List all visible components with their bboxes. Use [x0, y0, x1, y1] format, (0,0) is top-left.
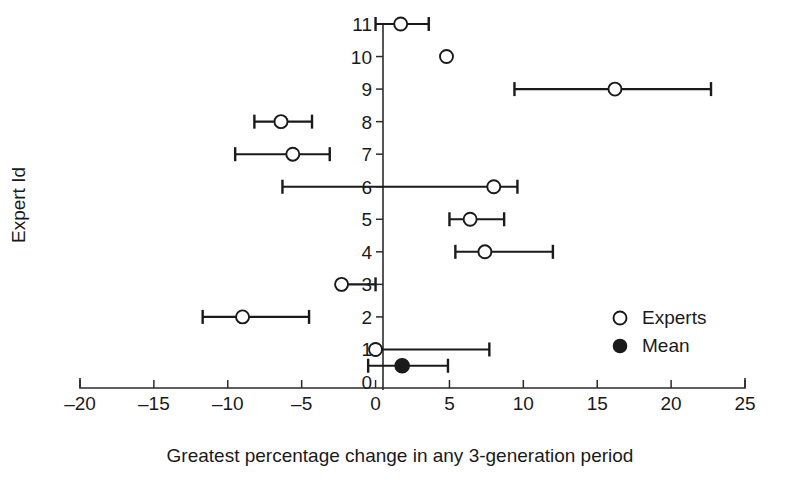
data-points-layer	[203, 17, 711, 373]
data-row	[440, 50, 453, 63]
y-axis-tick-label: 5	[361, 209, 372, 230]
y-axis-tick-label: 10	[351, 47, 372, 68]
data-row	[514, 82, 711, 96]
expert-marker	[369, 343, 382, 356]
chart-legend: ExpertsMean	[614, 307, 707, 356]
expert-marker	[236, 310, 249, 323]
data-row	[203, 310, 309, 324]
x-axis-tick-label: 5	[444, 393, 455, 414]
y-axis: 01234567891011	[351, 14, 383, 393]
y-axis-tick-label: 7	[361, 144, 372, 165]
expert-marker	[487, 180, 500, 193]
data-row	[449, 212, 504, 226]
data-row	[455, 245, 553, 259]
y-axis-title: Expert Id	[8, 167, 29, 243]
x-axis-tick-label: 25	[734, 393, 755, 414]
y-axis-tick-label: 11	[352, 14, 372, 35]
expert-marker	[394, 18, 407, 31]
data-row	[282, 180, 517, 194]
x-axis-tick-label: 0	[370, 393, 381, 414]
expert-estimates-chart: –20–15–10–50510152025 01234567891011 Exp…	[0, 0, 801, 482]
x-axis-title: Greatest percentage change in any 3-gene…	[167, 445, 634, 466]
x-axis-tick-label: –5	[291, 393, 312, 414]
data-row	[368, 359, 448, 373]
x-axis-tick-label: 20	[661, 393, 682, 414]
mean-marker	[395, 359, 409, 373]
expert-marker	[608, 83, 621, 96]
expert-marker	[478, 245, 491, 258]
expert-marker	[286, 148, 299, 161]
x-axis-tick-label: –15	[138, 393, 170, 414]
expert-marker	[440, 50, 453, 63]
y-axis-tick-label: 9	[361, 79, 372, 100]
x-axis: –20–15–10–50510152025	[64, 378, 755, 414]
legend-marker-experts	[614, 312, 627, 325]
y-axis-tick-label: 2	[361, 307, 372, 328]
x-axis-line	[80, 378, 745, 388]
expert-marker	[335, 278, 348, 291]
x-axis-tick-label: –20	[64, 393, 96, 414]
x-axis-tick-label: 15	[587, 393, 608, 414]
chart-canvas: –20–15–10–50510152025 01234567891011 Exp…	[0, 0, 801, 482]
data-row	[254, 115, 312, 129]
y-axis-tick-label: 8	[361, 112, 372, 133]
y-axis-tick-label: 0	[361, 372, 372, 393]
legend-marker-mean	[614, 340, 627, 353]
expert-marker	[464, 213, 477, 226]
expert-marker	[274, 115, 287, 128]
data-row	[369, 342, 489, 356]
legend-label-experts: Experts	[642, 307, 706, 328]
legend-label-mean: Mean	[642, 335, 690, 356]
data-row	[235, 147, 330, 161]
y-axis-tick-label: 4	[361, 242, 372, 263]
x-axis-tick-label: –10	[212, 393, 244, 414]
x-axis-tick-label: 10	[513, 393, 534, 414]
